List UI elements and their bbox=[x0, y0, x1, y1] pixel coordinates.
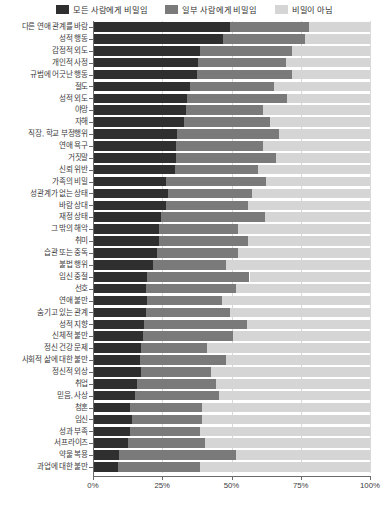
bar-segment[interactable] bbox=[226, 355, 370, 365]
bar-segment[interactable] bbox=[93, 58, 198, 68]
bar-segment[interactable] bbox=[93, 438, 128, 448]
bar-segment[interactable] bbox=[190, 82, 274, 92]
bar-segment[interactable] bbox=[130, 427, 199, 437]
bar-segment[interactable] bbox=[130, 403, 202, 413]
bar-segment[interactable] bbox=[222, 296, 370, 306]
bar-segment[interactable] bbox=[93, 212, 161, 222]
bar-row[interactable] bbox=[93, 308, 370, 318]
bar-row[interactable] bbox=[93, 201, 370, 211]
bar-segment[interactable] bbox=[93, 367, 141, 377]
bar-row[interactable] bbox=[93, 22, 370, 32]
bar-segment[interactable] bbox=[276, 153, 370, 163]
bar-row[interactable] bbox=[93, 427, 370, 437]
bar-segment[interactable] bbox=[137, 379, 216, 389]
bar-segment[interactable] bbox=[216, 379, 370, 389]
bar-segment[interactable] bbox=[128, 438, 206, 448]
bar-row[interactable] bbox=[93, 153, 370, 163]
bar-row[interactable] bbox=[93, 58, 370, 68]
bar-row[interactable] bbox=[93, 177, 370, 187]
bar-row[interactable] bbox=[93, 141, 370, 151]
bar-row[interactable] bbox=[93, 189, 370, 199]
bar-segment[interactable] bbox=[270, 117, 370, 127]
bar-row[interactable] bbox=[93, 367, 370, 377]
bar-segment[interactable] bbox=[198, 58, 285, 68]
bar-segment[interactable] bbox=[93, 331, 143, 341]
bar-segment[interactable] bbox=[248, 236, 370, 246]
bar-segment[interactable] bbox=[258, 165, 370, 175]
bar-segment[interactable] bbox=[119, 450, 235, 460]
bar-segment[interactable] bbox=[211, 367, 370, 377]
bar-segment[interactable] bbox=[197, 70, 293, 80]
bar-segment[interactable] bbox=[93, 248, 157, 258]
bar-segment[interactable] bbox=[93, 450, 119, 460]
bar-segment[interactable] bbox=[286, 58, 370, 68]
bar-segment[interactable] bbox=[93, 427, 130, 437]
bar-segment[interactable] bbox=[200, 462, 370, 472]
bar-segment[interactable] bbox=[159, 236, 248, 246]
bar-row[interactable] bbox=[93, 355, 370, 365]
bar-segment[interactable] bbox=[141, 367, 210, 377]
bar-row[interactable] bbox=[93, 296, 370, 306]
bar-row[interactable] bbox=[93, 379, 370, 389]
bar-row[interactable] bbox=[93, 82, 370, 92]
bar-segment[interactable] bbox=[233, 331, 370, 341]
bar-segment[interactable] bbox=[93, 201, 166, 211]
bar-segment[interactable] bbox=[146, 284, 236, 294]
bar-row[interactable] bbox=[93, 272, 370, 282]
bar-segment[interactable] bbox=[226, 260, 370, 270]
bar-segment[interactable] bbox=[93, 260, 153, 270]
legend-item-secret-from-some[interactable]: 일부 사람에게 비밀임 bbox=[165, 3, 256, 15]
bar-row[interactable] bbox=[93, 391, 370, 401]
bar-row[interactable] bbox=[93, 260, 370, 270]
bar-segment[interactable] bbox=[166, 201, 248, 211]
bar-segment[interactable] bbox=[147, 296, 222, 306]
bar-segment[interactable] bbox=[93, 129, 177, 139]
bar-segment[interactable] bbox=[266, 177, 370, 187]
bar-segment[interactable] bbox=[93, 22, 230, 32]
bar-segment[interactable] bbox=[238, 224, 370, 234]
bar-segment[interactable] bbox=[140, 355, 226, 365]
bar-segment[interactable] bbox=[147, 272, 249, 282]
bar-segment[interactable] bbox=[93, 379, 137, 389]
bar-segment[interactable] bbox=[93, 189, 168, 199]
bar-row[interactable] bbox=[93, 343, 370, 353]
bar-segment[interactable] bbox=[274, 82, 370, 92]
bar-segment[interactable] bbox=[93, 308, 146, 318]
bar-row[interactable] bbox=[93, 415, 370, 425]
bar-row[interactable] bbox=[93, 46, 370, 56]
bar-row[interactable] bbox=[93, 438, 370, 448]
bar-segment[interactable] bbox=[187, 94, 287, 104]
bar-segment[interactable] bbox=[200, 46, 293, 56]
bar-segment[interactable] bbox=[93, 403, 130, 413]
bar-segment[interactable] bbox=[230, 308, 370, 318]
bar-segment[interactable] bbox=[93, 224, 159, 234]
bar-segment[interactable] bbox=[132, 415, 203, 425]
bar-segment[interactable] bbox=[93, 165, 175, 175]
bar-segment[interactable] bbox=[292, 46, 370, 56]
bar-segment[interactable] bbox=[144, 320, 246, 330]
bar-segment[interactable] bbox=[287, 94, 370, 104]
bar-segment[interactable] bbox=[93, 82, 190, 92]
bar-segment[interactable] bbox=[265, 212, 370, 222]
legend-item-not-secret[interactable]: 비밀이 아님 bbox=[275, 3, 333, 15]
bar-segment[interactable] bbox=[230, 22, 309, 32]
bar-row[interactable] bbox=[93, 236, 370, 246]
bar-row[interactable] bbox=[93, 105, 370, 115]
bar-segment[interactable] bbox=[202, 415, 370, 425]
bar-segment[interactable] bbox=[159, 224, 238, 234]
bar-row[interactable] bbox=[93, 70, 370, 80]
bar-row[interactable] bbox=[93, 165, 370, 175]
bar-segment[interactable] bbox=[161, 212, 265, 222]
bar-segment[interactable] bbox=[93, 153, 176, 163]
bar-segment[interactable] bbox=[93, 391, 135, 401]
bar-segment[interactable] bbox=[93, 462, 118, 472]
bar-segment[interactable] bbox=[135, 391, 219, 401]
bar-segment[interactable] bbox=[93, 355, 140, 365]
bar-row[interactable] bbox=[93, 403, 370, 413]
bar-segment[interactable] bbox=[93, 105, 186, 115]
bar-segment[interactable] bbox=[93, 70, 197, 80]
bar-segment[interactable] bbox=[177, 129, 278, 139]
bar-segment[interactable] bbox=[236, 284, 370, 294]
bar-segment[interactable] bbox=[93, 236, 159, 246]
bar-segment[interactable] bbox=[238, 248, 370, 258]
